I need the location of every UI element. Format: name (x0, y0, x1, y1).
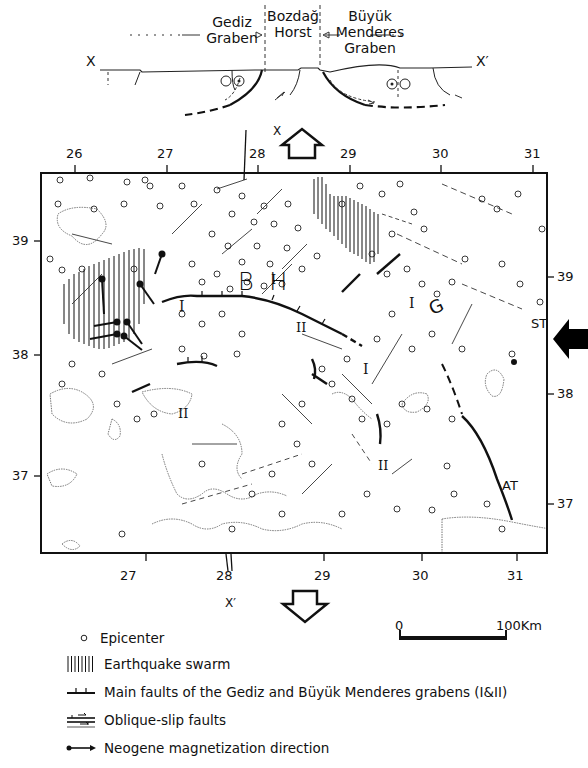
lat-label-right: 38 (557, 386, 574, 401)
lon-label-bottom: 31 (507, 568, 524, 583)
legend-label: Main faults of the Gediz and Büyük Mende… (104, 684, 507, 700)
lat-label-left: 37 (12, 468, 29, 483)
lon-label-top: 26 (66, 146, 83, 161)
lon-label-bottom: 27 (120, 568, 137, 583)
fault-label-ii: II (178, 406, 188, 421)
legend-item-main-faults: Main faults of the Gediz and Büyük Mende… (66, 682, 507, 702)
cross-section: Gediz Graben Bozdağ Horst Büyük Menderes… (0, 0, 588, 125)
magnetization-arrows (90, 252, 516, 365)
buyuk-menderes-graben-label: Büyük Menderes Graben (335, 8, 405, 56)
bozdag-horst-label: Bozdağ Horst (266, 8, 320, 40)
lat-label-left: 39 (12, 233, 29, 248)
main-faults (132, 254, 512, 520)
legend-label: Epicenter (100, 630, 164, 646)
map-drawing (42, 174, 548, 554)
fault-label-ii: II (378, 458, 388, 473)
fault-label-i: I (363, 361, 369, 377)
gediz-label-line2: Graben (202, 30, 262, 46)
fault-label-ii: II (296, 320, 306, 335)
lon-label-top: 27 (157, 146, 174, 161)
dot-arrow-icon (66, 739, 96, 757)
scale-end: 100Km (496, 618, 542, 633)
lat-label-right: 39 (557, 269, 574, 284)
buyuk-label-line2: Menderes (335, 24, 405, 40)
epicenters (47, 175, 545, 537)
scale-tick (399, 630, 401, 638)
region-label-bozdag-horst: B H (238, 268, 291, 296)
gediz-graben-label: Gediz Graben (202, 14, 262, 46)
fault-label-i: I (271, 272, 276, 287)
fault-label-i: I (409, 295, 415, 311)
region-label-st: ST (531, 316, 547, 331)
oblique-slip-icon (66, 711, 96, 729)
legend-label: Earthquake swarm (104, 656, 230, 672)
lon-label-bottom: 30 (412, 568, 429, 583)
extension-arrow-south (273, 588, 333, 626)
lon-label-top: 30 (432, 146, 449, 161)
section-end-x-prime: X′ (476, 53, 489, 69)
map-marker-x-prime: X′ (225, 595, 236, 611)
compression-arrow-east (551, 314, 588, 364)
lat-label-left: 38 (12, 347, 29, 362)
lat-label-right: 37 (557, 496, 574, 511)
map-frame: B H G ST AT I I I I II II II (40, 172, 548, 554)
map-marker-x: X (273, 123, 281, 139)
bozdag-label-line2: Horst (266, 24, 320, 40)
ticked-fault-icon (66, 683, 96, 701)
legend-item-epicenter: Epicenter (80, 628, 164, 648)
vertical-hatch-icon (66, 655, 96, 673)
legend-item-oblique-slip: Oblique-slip faults (66, 710, 226, 730)
buyuk-label-line3: Graben (335, 40, 405, 56)
scale-tick (505, 630, 507, 638)
legend-label: Neogene magnetization direction (104, 740, 329, 756)
lon-label-top: 31 (524, 146, 541, 161)
lon-label-top: 28 (249, 146, 266, 161)
region-label-at: AT (502, 478, 518, 493)
section-end-x: X (86, 53, 96, 69)
bozdag-label-line1: Bozdağ (266, 8, 320, 24)
lon-label-bottom: 28 (216, 568, 233, 583)
gediz-label-line1: Gediz (202, 14, 262, 30)
legend-label: Oblique-slip faults (104, 712, 226, 728)
lon-label-bottom: 29 (314, 568, 331, 583)
scale-bar: 0 100Km (395, 618, 525, 648)
legend-item-magnetization: Neogene magnetization direction (66, 738, 329, 758)
legend-item-earthquake-swarm: Earthquake swarm (66, 654, 230, 674)
open-circle-icon (80, 629, 88, 647)
lon-label-top: 29 (340, 146, 357, 161)
scale-bar-line (399, 636, 507, 640)
swarm-north (314, 177, 378, 264)
fault-label-i: I (179, 298, 185, 314)
buyuk-label-line1: Büyük (335, 8, 405, 24)
coastlines (47, 207, 548, 554)
